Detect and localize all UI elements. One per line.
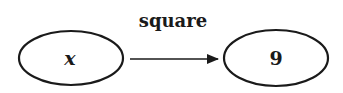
arrow-label: square <box>139 10 207 31</box>
function-diagram: x square 9 <box>0 0 343 93</box>
input-label: x <box>63 47 76 69</box>
output-node: 9 <box>224 30 328 86</box>
input-node: x <box>19 31 123 85</box>
output-label: 9 <box>269 47 282 69</box>
mapping-arrow: square <box>130 10 218 59</box>
